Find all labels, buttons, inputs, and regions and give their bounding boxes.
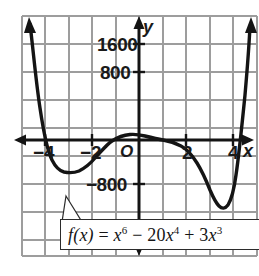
formula-callout-box: f(x) = x6 − 20x4 + 3x3 <box>60 219 259 250</box>
x-tick-label-4: 4 <box>228 143 239 162</box>
graph-figure: 1600 800 −800 −4 −2 2 4 O y x f(x) = x6 … <box>0 0 259 276</box>
formula-op2: + <box>180 225 200 245</box>
x-tick-label-neg2: −2 <box>80 143 102 162</box>
x-axis-name: x <box>243 142 253 160</box>
formula-equals: = <box>94 225 114 245</box>
y-tick-label-neg800: −800 <box>86 175 127 194</box>
origin-label: O <box>120 143 133 160</box>
y-tick-label-800: 800 <box>100 63 130 82</box>
formula-term3-exp: 3 <box>217 224 223 236</box>
formula-op1: − <box>127 225 147 245</box>
formula-term2-coef: 20 <box>147 225 165 245</box>
x-tick-label-2: 2 <box>182 143 193 162</box>
y-tick-label-1600: 1600 <box>97 35 137 54</box>
formula-fx: f(x) <box>68 225 94 245</box>
formula-term1-base: x <box>114 225 122 245</box>
formula-term3-coef: 3 <box>199 225 208 245</box>
x-tick-label-neg4: −4 <box>33 143 55 162</box>
formula-text: f(x) = x6 − 20x4 + 3x3 <box>68 224 222 246</box>
formula-term3-base: x <box>209 225 217 245</box>
formula-term2-base: x <box>166 225 174 245</box>
y-axis-name: y <box>143 18 153 36</box>
